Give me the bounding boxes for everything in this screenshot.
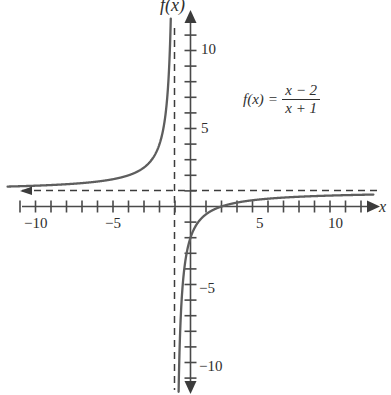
function-formula: f(x) = x − 2 x + 1 [243,82,320,117]
y-tick-label-pos10: 10 [201,42,216,57]
y-tick-label-neg10: −10 [199,359,222,374]
formula-denominator: x + 1 [282,100,320,117]
graph-figure: −10 −5 5 10 10 5 −5 −10 f(x) x f(x) = x … [0,0,391,395]
x-tick-label-pos10: 10 [328,216,343,231]
formula-lhs: f(x) [243,92,264,107]
x-axis-label: x [379,199,386,215]
formula-numerator: x − 2 [282,82,320,99]
x-tick-label-neg5: −5 [105,216,121,231]
formula-fraction: x − 2 x + 1 [282,82,320,117]
y-tick-label-pos5: 5 [201,121,209,136]
x-tick-label-neg10: −10 [24,216,47,231]
y-axis-label: f(x) [160,0,185,14]
curve-left-arrow-icon [20,187,32,196]
x-tick-label-pos5: 5 [256,216,264,231]
function-plot [0,0,391,395]
formula-equals: = [269,92,277,107]
y-axis-arrow-up-icon [185,10,197,23]
y-axis-arrow-down-icon [185,381,197,394]
curve-branch-left [8,19,171,187]
y-tick-label-neg5: −5 [199,281,215,296]
